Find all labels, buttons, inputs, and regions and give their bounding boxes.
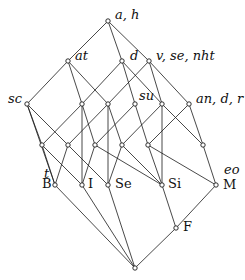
node-r4e <box>120 143 124 147</box>
lattice-graph <box>0 0 244 280</box>
edge-at-n82 <box>68 61 82 104</box>
edge-n162-r4e <box>122 104 162 145</box>
edge-v-an <box>149 61 189 104</box>
edge-r4f-Si <box>148 145 162 185</box>
node-I <box>80 183 84 187</box>
edge-B-bottom <box>55 185 135 268</box>
label-sc: sc <box>8 92 22 105</box>
node-Si <box>160 183 164 187</box>
label-F: F <box>183 220 192 233</box>
label-Se: Se <box>115 177 132 190</box>
label-I: I <box>88 177 93 190</box>
node-top <box>106 19 110 23</box>
label-M: M <box>223 178 236 191</box>
node-n162 <box>160 102 164 106</box>
edge-top-d <box>108 21 122 61</box>
label-eo: eo <box>224 163 240 176</box>
node-M <box>214 183 218 187</box>
edge-Si-F <box>162 185 176 228</box>
node-sc <box>25 102 29 106</box>
edge-r4g-M <box>203 145 216 185</box>
label-su: su <box>139 89 154 102</box>
node-bottom <box>133 266 137 270</box>
label-v-se-nht: v, se, nht <box>156 49 215 62</box>
edge-r4b-B <box>55 145 68 185</box>
node-F <box>174 226 178 230</box>
edge-r4f-M <box>148 145 216 185</box>
edge-top-v <box>108 21 149 61</box>
label-Si: Si <box>168 177 181 190</box>
edge-I-bottom <box>82 185 135 268</box>
node-r4g <box>201 143 205 147</box>
label-B: B <box>42 177 52 190</box>
node-r4a <box>40 143 44 147</box>
edge-Se-bottom <box>108 185 135 268</box>
node-an <box>187 102 191 106</box>
concept-lattice-diagram: a, h at d v, se, nht sc su an, d, r t B … <box>0 0 244 280</box>
label-at: at <box>75 49 88 62</box>
node-n82 <box>80 102 84 106</box>
edge-M-F <box>176 185 216 228</box>
node-su <box>133 102 137 106</box>
node-d <box>120 59 124 63</box>
edge-at-sc <box>27 61 68 104</box>
label-an-d-r: an, d, r <box>196 92 243 105</box>
edge-F-bottom <box>135 228 176 268</box>
node-v <box>147 59 151 63</box>
edge-top-at <box>68 21 108 61</box>
node-B <box>53 183 57 187</box>
edge-su-r4c <box>95 104 135 145</box>
label-d: d <box>130 49 138 62</box>
node-r4f <box>146 143 150 147</box>
node-Se <box>106 183 110 187</box>
edge-an-r4g <box>189 104 203 145</box>
node-at <box>66 59 70 63</box>
node-n108 <box>106 102 110 106</box>
label-a-h: a, h <box>115 8 139 21</box>
edge-n108-r4b <box>68 104 108 145</box>
node-r4b <box>66 143 70 147</box>
node-r4c <box>93 143 97 147</box>
